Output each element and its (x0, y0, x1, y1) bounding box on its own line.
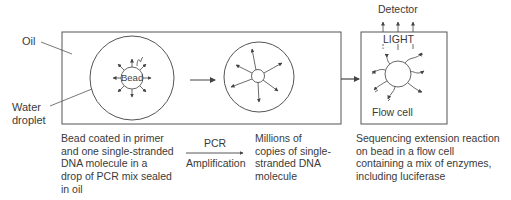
pcr-label: PCR (204, 137, 226, 150)
oil-container-box (62, 32, 341, 124)
light-label: LIGHT (383, 33, 414, 46)
detector-label: Detector (378, 3, 418, 16)
water-droplet-label-line2: droplet (12, 114, 46, 127)
step3-caption: Sequencing extension reaction on bead in… (356, 132, 500, 183)
flow-cell-bead (385, 61, 411, 87)
water-droplet-label-line1: Water (12, 101, 41, 114)
amplified-bead-circle (252, 70, 265, 83)
dna-strand-icon (137, 57, 143, 66)
oil-pointer-line (41, 42, 72, 54)
bead-label: Bead (121, 72, 143, 85)
oil-label: Oil (22, 35, 35, 48)
amplification-label: Amplification (186, 157, 246, 170)
flow-cell-label: Flow cell (372, 106, 413, 119)
amplified-dna-arrows-icon (231, 49, 282, 102)
step1-caption: Bead coated in primer and one single-str… (61, 132, 174, 196)
extension-strands-icon (372, 53, 424, 101)
step2-caption: Millions of copies of single- stranded D… (255, 132, 331, 183)
water-droplet-pointer-line (50, 89, 92, 106)
